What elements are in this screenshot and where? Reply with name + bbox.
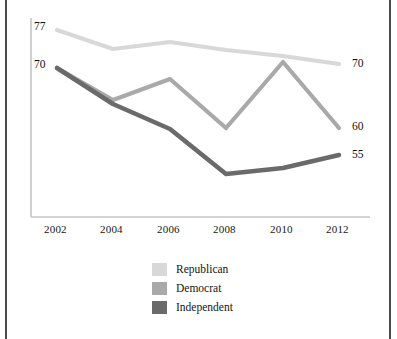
legend-swatch-republican-icon [152, 263, 167, 276]
legend-swatch-democrat-icon [152, 282, 167, 295]
value-label-democrat-start: 70 [34, 58, 46, 70]
x-tick-2002: 2002 [44, 223, 67, 235]
legend-item-republican: Republican [152, 261, 233, 277]
value-label-republican-end: 70 [352, 57, 364, 69]
x-tick-2004: 2004 [100, 223, 123, 235]
legend-item-independent: Independent [152, 299, 233, 315]
legend-label-democrat: Democrat [176, 282, 221, 295]
chart-figure: 77 70 70 60 55 2002 2004 2006 2008 2010 … [0, 0, 397, 339]
x-tick-2006: 2006 [157, 223, 180, 235]
series-line-republican [57, 30, 339, 64]
legend-label-independent: Independent [176, 301, 233, 314]
value-label-democrat-end: 60 [352, 120, 364, 132]
series-line-independent [57, 68, 339, 174]
value-label-republican-start: 77 [34, 20, 46, 32]
x-tick-2008: 2008 [213, 223, 236, 235]
x-tick-2012: 2012 [326, 223, 349, 235]
value-label-independent-end: 55 [352, 148, 364, 160]
legend-label-republican: Republican [176, 263, 228, 276]
legend-swatch-independent-icon [152, 301, 167, 314]
chart-legend: Republican Democrat Independent [152, 261, 233, 315]
legend-item-democrat: Democrat [152, 280, 233, 296]
x-tick-2010: 2010 [270, 223, 293, 235]
